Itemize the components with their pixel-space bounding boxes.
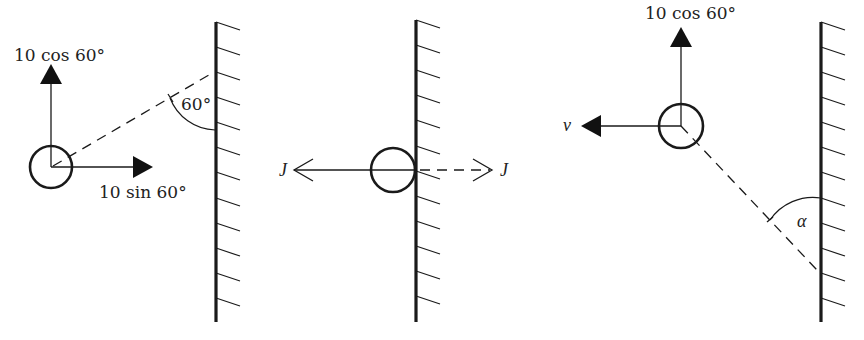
arrowhead-up-icon — [40, 64, 62, 84]
wall-hatching — [216, 22, 240, 306]
wall — [416, 20, 440, 322]
wall — [821, 22, 845, 322]
panel-after-impact: α 10 cos 60° v — [563, 3, 845, 322]
horizontal-component-label: 10 sin 60° — [99, 182, 187, 202]
velocity-label: v — [563, 115, 571, 135]
angle-arc — [770, 197, 821, 220]
impulse-right-label: J — [500, 160, 509, 180]
impulse-left-label: J — [279, 160, 288, 180]
arrowhead-right-icon — [133, 156, 153, 178]
incoming-path-line — [53, 72, 214, 166]
angle-label: 60° — [181, 94, 211, 114]
arrowhead-up-icon — [670, 27, 692, 47]
wall-hatching — [821, 22, 845, 306]
panel-before-impact: 60° 10 cos 60° 10 sin 60° — [14, 22, 240, 322]
wall-hatching — [416, 20, 440, 304]
arrowhead-left-icon — [581, 115, 601, 137]
angle-arc-tick — [168, 94, 173, 102]
vertical-component-label: 10 cos 60° — [14, 45, 105, 65]
panel-impact: J J — [279, 20, 509, 322]
vertical-component-label: 10 cos 60° — [645, 3, 736, 23]
outgoing-path-line — [681, 126, 817, 270]
wall — [216, 22, 240, 322]
wall-collision-diagram: 60° 10 cos 60° 10 sin 60° — [0, 0, 864, 340]
angle-label: α — [797, 211, 807, 231]
